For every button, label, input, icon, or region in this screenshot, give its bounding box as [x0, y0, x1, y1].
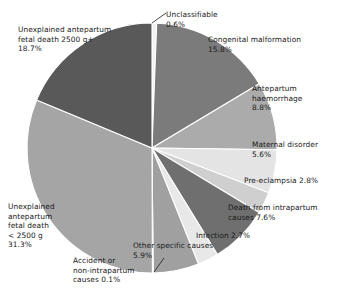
leader-line-unclassifiable — [152, 13, 166, 23]
slice-label-unexplained-under-2500g: Unexplained antepartum fetal death < 250… — [8, 202, 86, 250]
slice-label-infection: Infection 2.7% — [196, 231, 292, 241]
slice-label-pre-eclampsia: Pre-eclampsia 2.8% — [244, 176, 347, 186]
pie-chart-figure: Unclassifiable 0.6% Congenital malformat… — [0, 0, 347, 298]
slice-label-maternal-disorder: Maternal disorder 5.6% — [252, 140, 344, 159]
slice-label-unexplained-2500g-plus: Unexplained antepartum fetal death 2500 … — [18, 25, 146, 54]
slice-label-antepartum-haemorrhage: Antepartum haemorrhage 8.8% — [252, 84, 344, 113]
slice-label-congenital-malformation: Congenital malformation 15.8% — [208, 35, 340, 54]
slice-label-death-from-intrapartum-causes: Death from intrapartum causes 7.6% — [228, 203, 346, 222]
slice-label-accident-non-intrapartum: Accident or non-intrapartum causes 0.1% — [73, 256, 159, 285]
slice-label-unclassifiable: Unclassifiable 0.6% — [166, 10, 262, 29]
